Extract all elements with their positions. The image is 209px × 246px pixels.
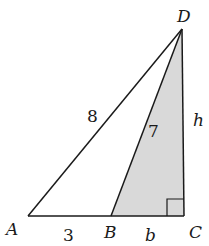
length-label-bc: b: [145, 227, 156, 244]
length-label-cd: h: [193, 112, 204, 129]
triangle-diagram: [0, 0, 209, 246]
length-label-ad: 8: [87, 108, 98, 125]
vertex-label-b: B: [104, 224, 117, 241]
vertex-label-a: A: [6, 221, 18, 238]
vertex-label-c: C: [189, 224, 202, 241]
length-label-bd: 7: [148, 123, 159, 140]
vertex-label-d: D: [177, 8, 191, 25]
length-label-ab: 3: [63, 227, 74, 244]
